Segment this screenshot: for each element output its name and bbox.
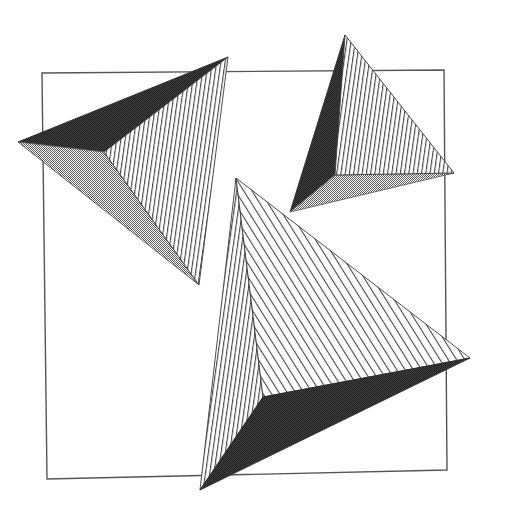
artwork-canvas [0, 0, 506, 518]
artboard [0, 0, 506, 518]
